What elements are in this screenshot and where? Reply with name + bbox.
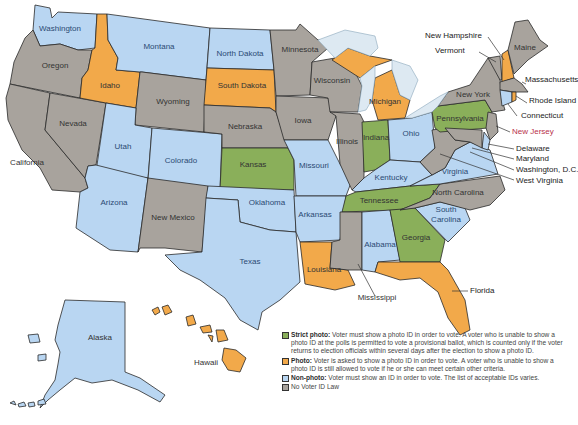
label-north-carolina: North Carolina	[432, 189, 484, 197]
label-north-dakota: North Dakota	[216, 50, 263, 58]
leader-connecticut	[508, 104, 517, 116]
label-maine: Maine	[514, 44, 536, 52]
label-arkansas: Arkansas	[298, 211, 331, 219]
label-mississippi: Mississippi	[358, 294, 397, 302]
label-alabama: Alabama	[364, 241, 396, 249]
label-tennessee: Tennessee	[360, 197, 399, 205]
label-utah: Utah	[115, 143, 132, 151]
label-south-carolina-line2: Carolina	[431, 216, 461, 224]
label-georgia: Georgia	[402, 234, 430, 242]
label-california: California	[10, 159, 44, 167]
state-kansas	[220, 148, 294, 190]
label-idaho: Idaho	[100, 82, 120, 90]
label-missouri: Missouri	[299, 162, 329, 170]
state-rhode-island	[512, 92, 516, 102]
legend-text: No Voter ID Law	[291, 383, 339, 390]
label-illinois: Illinois	[336, 138, 358, 146]
legend-item-non-photo: Non-photo: Voter must show an ID in orde…	[282, 374, 572, 382]
label-vermont: Vermont	[435, 47, 465, 55]
label-iowa: Iowa	[295, 117, 312, 125]
label-arizona: Arizona	[100, 199, 127, 207]
label-oregon: Oregon	[42, 62, 69, 70]
label-new-hampshire: New Hampshire	[425, 32, 482, 40]
label-nebraska: Nebraska	[228, 123, 262, 131]
state-alaska	[40, 300, 165, 408]
label-texas: Texas	[240, 258, 261, 266]
label-wisconsin: Wisconsin	[314, 77, 350, 85]
label-wyoming: Wyoming	[156, 98, 189, 106]
legend-swatch-photo	[282, 358, 289, 365]
state-arizona	[76, 165, 148, 252]
label-hawaii: Hawaii	[194, 359, 218, 367]
legend-text: Voter must show an ID in order to vote. …	[327, 374, 540, 381]
label-washington-dc: Washington, D.C.	[516, 166, 578, 174]
label-louisiana: Louisiana	[307, 266, 341, 274]
legend-text: Voter must show a photo ID in order to v…	[291, 331, 563, 354]
label-massachusetts: Massachusetts	[525, 76, 578, 84]
label-oklahoma: Oklahoma	[249, 199, 285, 207]
label-rhode-island: Rhode Island	[529, 97, 576, 105]
label-minnesota: Minnesota	[282, 46, 319, 54]
label-new-mexico: New Mexico	[151, 214, 195, 222]
label-alaska: Alaska	[88, 334, 112, 342]
legend-swatch-non-photo	[282, 375, 289, 382]
legend-swatch-none	[282, 384, 289, 391]
label-montana: Montana	[143, 43, 174, 51]
label-south-dakota: South Dakota	[218, 82, 266, 90]
legend: Strict photo: Voter must show a photo ID…	[282, 331, 572, 392]
label-maryland: Maryland	[516, 155, 549, 163]
legend-text: Voter is asked to show a photo ID in ord…	[291, 357, 554, 372]
alaska-island	[38, 354, 46, 361]
label-virginia: Virginia	[442, 168, 469, 176]
label-connecticut: Connecticut	[521, 112, 563, 120]
label-new-york: New York	[456, 91, 490, 99]
state-arkansas	[294, 196, 346, 242]
leader-rhode-island	[516, 96, 527, 103]
alaska-island	[28, 334, 40, 343]
label-pennsylvania: Pennsylvania	[436, 115, 484, 123]
legend-title: Photo:	[291, 357, 312, 364]
label-indiana: Indiana	[363, 134, 389, 142]
label-kentucky: Kentucky	[375, 174, 408, 182]
legend-item-none: No Voter ID Law	[282, 383, 572, 391]
label-south-carolina-line1: South	[436, 206, 457, 214]
label-west-virginia: West Virginia	[516, 177, 563, 185]
legend-swatch-strict-photo	[282, 332, 289, 339]
label-ohio: Ohio	[403, 130, 420, 138]
label-florida: Florida	[470, 287, 494, 295]
label-delaware: Delaware	[516, 145, 550, 153]
legend-title: Strict photo:	[291, 331, 330, 338]
label-washington: Washington	[39, 25, 81, 33]
state-connecticut	[500, 90, 512, 106]
legend-title: Non-photo:	[291, 374, 327, 381]
leader-delaware	[488, 144, 514, 149]
legend-item-photo: Photo: Voter is asked to show a photo ID…	[282, 357, 572, 373]
label-michigan: Michigan	[369, 98, 401, 106]
label-new-jersey: New Jersey	[512, 128, 554, 136]
label-colorado: Colorado	[165, 157, 197, 165]
legend-item-strict-photo: Strict photo: Voter must show a photo ID…	[282, 331, 572, 356]
label-kansas: Kansas	[240, 161, 267, 169]
label-nevada: Nevada	[59, 120, 87, 128]
